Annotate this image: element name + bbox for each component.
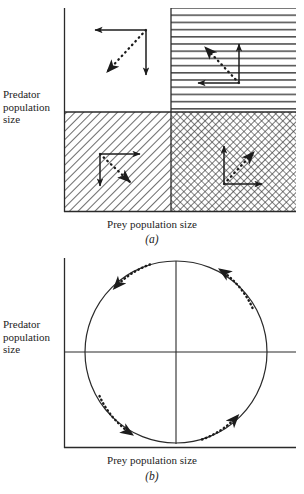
quadrant-bottom-left-fill — [64, 112, 171, 212]
panel-b-y-axis-label-line-3: size — [3, 343, 50, 356]
orbit-arrow-upper-left — [114, 265, 151, 290]
panel-b-x-axis-label: Prey population size — [62, 454, 242, 467]
quadrant-bottom-right-fill — [171, 112, 296, 212]
panel-b-y-axis-label-line-1: Predator — [3, 318, 50, 331]
quadrant-top-right-fill — [171, 8, 296, 112]
panel-b — [64, 258, 296, 448]
panel-a-y-axis-label-line-3: size — [3, 113, 50, 126]
panel-a-y-axis-label-line-1: Predator — [3, 88, 50, 101]
panel-b-caption: (b) — [62, 470, 242, 483]
panel-a — [64, 8, 296, 212]
figure-canvas — [0, 0, 304, 494]
panel-b-y-axis-label-line-2: population — [3, 331, 50, 344]
figure-predator-prey-phase-plane: Predator population size Prey population… — [0, 0, 304, 494]
panel-a-y-axis-label-line-2: population — [3, 101, 50, 114]
panel-a-x-axis-label: Prey population size — [62, 218, 242, 231]
panel-b-y-axis-label: Predator population size — [3, 318, 50, 356]
panel-a-caption: (a) — [62, 233, 242, 246]
orbit-arrow-lower-right — [202, 415, 239, 440]
panel-a-y-axis-label: Predator population size — [3, 88, 50, 126]
